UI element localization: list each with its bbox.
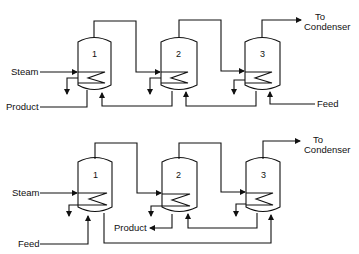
vessel-3-bottom xyxy=(246,158,280,212)
effect-label-2-top: 2 xyxy=(176,49,181,59)
feed-label-bottom: Feed xyxy=(18,239,40,249)
vessel-1-bottom xyxy=(78,158,112,212)
condenser-label-top-line2: Condenser xyxy=(304,22,350,32)
vessel-3-top xyxy=(245,38,280,90)
steam-label-top: Steam xyxy=(11,67,38,77)
effect-label-1-top: 1 xyxy=(92,49,97,59)
effect-label-3-bottom: 3 xyxy=(261,170,266,180)
product-label-top: Product xyxy=(6,102,39,112)
evaporator-diagram xyxy=(0,0,359,254)
effect-label-3-top: 3 xyxy=(260,49,265,59)
product-label-bottom: Product xyxy=(114,223,147,233)
vessel-2-bottom xyxy=(162,158,197,212)
effect-label-1-bottom: 1 xyxy=(93,170,98,180)
feed-label-top: Feed xyxy=(317,99,339,109)
condenser-label-bottom-line2: Condenser xyxy=(304,145,350,155)
vessel-2-top xyxy=(161,38,197,90)
steam-label-bottom: Steam xyxy=(12,188,39,198)
vessel-1-top xyxy=(78,38,111,90)
effect-label-2-bottom: 2 xyxy=(176,170,181,180)
